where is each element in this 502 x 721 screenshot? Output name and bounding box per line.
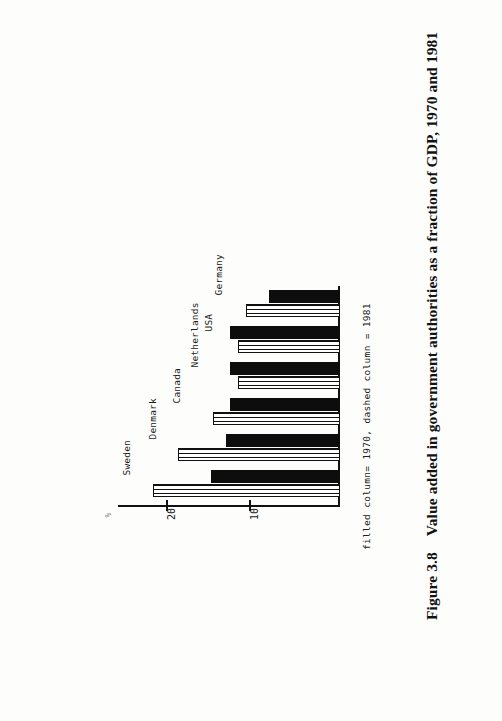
axis-tick-label-20: 20 [166,501,177,527]
page-background: 20 10 % Germany USA Netherlands Canada [0,0,502,721]
bar-chart: 20 10 % Germany USA Netherlands Canada [108,286,340,522]
category-label-sweden: Sweden [121,440,132,476]
figure-number: Figure 3.8 [423,552,440,620]
axis-unit-label: % [104,513,113,518]
category-label-canada: Canada [171,368,182,404]
bar-sweden-1970 [211,470,340,483]
bar-germany-1981 [246,304,340,317]
bar-denmark-1981 [178,448,340,461]
bar-usa-1981 [238,340,340,353]
bar-netherlands-1981 [238,376,340,389]
chart-legend: filled column= 1970, dashed column = 198… [361,250,372,550]
category-label-netherlands: Netherlands [189,302,200,367]
category-label-germany: Germany [213,254,224,295]
bar-usa-1970 [230,326,340,339]
value-axis-line [118,505,340,507]
bar-netherlands-1970 [230,362,340,375]
bar-canada-1981 [213,412,340,425]
figure-caption-text: Value added in government authorities as… [423,32,440,536]
category-label-denmark: Denmark [147,398,158,439]
bar-denmark-1970 [226,434,340,447]
axis-tick-label-10: 10 [249,501,260,527]
category-label-usa: USA [203,314,214,332]
bar-canada-1970 [230,398,340,411]
bar-sweden-1981 [153,484,340,497]
bar-germany-1970 [269,290,340,303]
figure-caption: Figure 3.8Value added in government auth… [423,100,441,620]
